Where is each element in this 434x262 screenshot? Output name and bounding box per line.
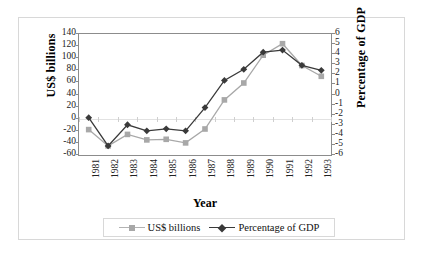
y-axis-right-title: Percentage of GDP	[354, 0, 369, 124]
x-tick-label: 1991	[286, 159, 296, 178]
y-tick-label: -40	[63, 137, 76, 147]
x-axis-ticks: 1981198219831984198519861987198819891990…	[78, 157, 332, 197]
y-tick-label: 80	[67, 64, 77, 74]
y2-tick-label: -4	[335, 129, 343, 139]
y2-tick-label: -1	[335, 99, 343, 109]
y2-tick-label: 4	[335, 48, 340, 58]
plot-area	[78, 33, 332, 156]
data-point-square	[125, 132, 131, 138]
legend-item-gdp: Percentage of GDP	[209, 222, 319, 233]
y-tick-label: 140	[62, 28, 76, 38]
x-tick-label: 1989	[247, 159, 257, 178]
legend-line-square	[119, 227, 145, 228]
y-axis-right-ticks: 6543210-1-2-3-4-5-6	[335, 26, 351, 163]
legend-line-diamond	[209, 227, 235, 228]
x-tick-label: 1987	[208, 159, 218, 178]
data-point-square	[86, 127, 92, 133]
data-point-diamond	[143, 127, 150, 134]
y-tick-label: -20	[63, 125, 76, 135]
y2-tick-label: -5	[335, 139, 343, 149]
y2-tick-label: -2	[335, 109, 343, 119]
x-tick-label: 1993	[324, 159, 334, 178]
data-point-square	[222, 97, 228, 103]
y2-tick-label: 2	[335, 68, 340, 78]
legend-label-gdp: Percentage of GDP	[238, 222, 319, 233]
data-point-square	[280, 41, 286, 47]
legend-label-usd: US$ billions	[148, 222, 201, 233]
x-tick-label: 1985	[169, 159, 179, 178]
data-point-diamond	[163, 125, 170, 132]
x-axis-title: Year	[78, 196, 332, 211]
y2-tick-label: -6	[335, 149, 343, 159]
data-point-diamond	[318, 67, 325, 74]
x-tick-label: 1988	[227, 159, 237, 178]
y2-tick-label: 6	[335, 28, 340, 38]
y-tick-label: 40	[67, 89, 77, 99]
y2-tick-label: 0	[335, 89, 340, 99]
data-point-square	[183, 140, 189, 146]
x-tick-mark	[331, 117, 332, 122]
y-tick-label: 100	[62, 52, 76, 62]
x-tick-label: 1986	[189, 159, 199, 178]
series-lines	[79, 34, 331, 155]
x-tick-label: 1982	[111, 159, 121, 178]
y-tick-label: 20	[67, 101, 77, 111]
data-point-square	[202, 126, 208, 132]
y-tick-label: -60	[63, 149, 76, 159]
x-tick-label: 1984	[150, 159, 160, 178]
y2-tick-label: 5	[335, 38, 340, 48]
legend-item-usd: US$ billions	[119, 222, 201, 233]
y-tick-label: 120	[62, 40, 76, 50]
data-point-square	[163, 137, 169, 143]
y-axis-left-ticks: 140120100806040200-20-40-60	[52, 26, 76, 163]
y2-tick-label: 1	[335, 78, 340, 88]
chart-figure: US$ billions Percentage of GDP 140120100…	[0, 0, 434, 262]
x-tick-label: 1990	[266, 159, 276, 178]
x-tick-label: 1981	[92, 159, 102, 178]
x-tick-label: 1992	[305, 159, 315, 178]
data-point-square	[319, 74, 325, 80]
chart-legend: US$ billions Percentage of GDP	[103, 218, 335, 237]
y2-tick-label: 3	[335, 58, 340, 68]
data-point-square	[144, 137, 150, 143]
square-marker-icon	[129, 225, 135, 231]
diamond-marker-icon	[218, 224, 226, 232]
data-point-square	[241, 80, 247, 86]
y-tick-label: 60	[67, 76, 77, 86]
x-tick-label: 1983	[130, 159, 140, 178]
y2-tick-label: -3	[335, 119, 343, 129]
